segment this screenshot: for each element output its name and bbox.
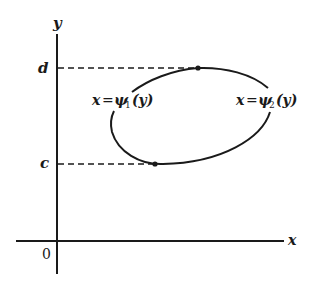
left-label-lhs: x xyxy=(91,92,101,108)
right-label-sub: 2 xyxy=(269,100,275,110)
d-label: d xyxy=(38,59,49,77)
curve-upper-right xyxy=(198,68,268,88)
top-point xyxy=(195,65,200,70)
right-label-lhs: x xyxy=(235,92,245,108)
curve-lower-right xyxy=(163,112,270,164)
right-label-arg: (y) xyxy=(276,92,297,108)
y-axis-label: y xyxy=(52,14,63,32)
right-curve-label: x = ψ 2 (y) xyxy=(235,91,297,110)
right-label-eq: = xyxy=(246,92,258,108)
region-diagram: y x 0 d c x = ψ 1 (y) x = ψ 2 (y) xyxy=(0,0,319,283)
c-label: c xyxy=(40,154,49,172)
left-label-sub: 1 xyxy=(125,100,131,110)
x-axis-label: x xyxy=(287,232,297,248)
bottom-point xyxy=(152,161,157,166)
curve-upper-left xyxy=(132,68,198,92)
left-curve-label: x = ψ 1 (y) xyxy=(91,91,153,110)
left-label-eq: = xyxy=(102,92,114,108)
left-label-arg: (y) xyxy=(132,92,153,108)
origin-label: 0 xyxy=(42,246,51,262)
curve-lower-left xyxy=(111,111,163,164)
